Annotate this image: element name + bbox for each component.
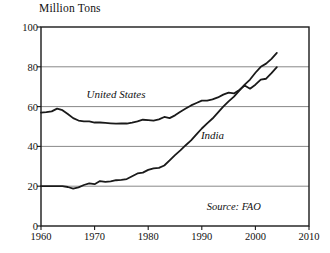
x-tick-1960: 1960 [31, 231, 52, 242]
series-line-india [41, 53, 277, 189]
chart-plot-area [0, 0, 330, 253]
y-tick-40: 40 [4, 141, 38, 152]
y-tick-100: 100 [4, 22, 38, 33]
x-tick-1990: 1990 [191, 231, 212, 242]
series-line-united-states [41, 67, 277, 124]
y-axis-tick-labels: 020406080100 [0, 0, 38, 253]
series-label-india: India [201, 129, 224, 141]
x-tick-2000: 2000 [245, 231, 266, 242]
y-tick-60: 60 [4, 101, 38, 112]
y-tick-80: 80 [4, 61, 38, 72]
source-note: Source: FAO [207, 201, 261, 212]
chart-figure: Million Tons 020406080100 19601970198019… [0, 0, 330, 253]
x-tick-2010: 2010 [299, 231, 320, 242]
y-tick-0: 0 [4, 221, 38, 232]
y-tick-20: 20 [4, 181, 38, 192]
series-label-united-states: United States [87, 88, 146, 100]
x-tick-1970: 1970 [84, 231, 105, 242]
x-tick-1980: 1980 [138, 231, 159, 242]
